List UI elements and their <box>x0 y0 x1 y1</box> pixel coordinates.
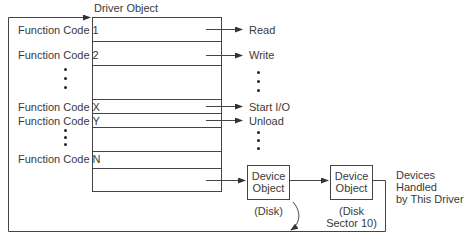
function-code-1-label: Function Code 1 <box>18 24 99 36</box>
target-unload-label: Unload <box>249 115 284 127</box>
device-object-1-line2: Object <box>247 182 290 194</box>
ellipsis-dots-icon <box>257 71 261 98</box>
device-object-2-line1: Device <box>330 170 373 182</box>
ellipsis-dots-icon <box>64 68 68 95</box>
device-2-caption-line1: (Disk <box>324 205 379 217</box>
device-1-caption: (Disk) <box>245 205 292 217</box>
device-2-caption-line2: Sector 10) <box>324 217 379 229</box>
target-start-io-label: Start I/O <box>249 101 290 113</box>
function-code-x-label: Function Code X <box>18 101 100 113</box>
target-read-label: Read <box>249 24 275 36</box>
device-object-2: Device Object <box>330 170 373 194</box>
device-object-1-line1: Device <box>247 170 290 182</box>
function-code-n-label: Function Code N <box>18 153 101 165</box>
function-code-y-label: Function Code Y <box>18 115 100 127</box>
target-write-label: Write <box>249 49 274 61</box>
device-2-caption: (Disk Sector 10) <box>324 205 379 229</box>
ellipsis-dots-icon <box>257 131 261 156</box>
devices-note-line1: Devices <box>396 169 464 181</box>
devices-note-line2: Handled <box>396 181 464 193</box>
devices-note: Devices Handled by This Driver <box>396 169 464 205</box>
driver-object-title: Driver Object <box>94 2 158 14</box>
device-object-2-line2: Object <box>330 182 373 194</box>
function-code-2-label: Function Code 2 <box>18 49 99 61</box>
device-object-1: Device Object <box>247 170 290 194</box>
ellipsis-dots-icon <box>64 129 68 152</box>
devices-note-line3: by This Driver <box>396 193 464 205</box>
